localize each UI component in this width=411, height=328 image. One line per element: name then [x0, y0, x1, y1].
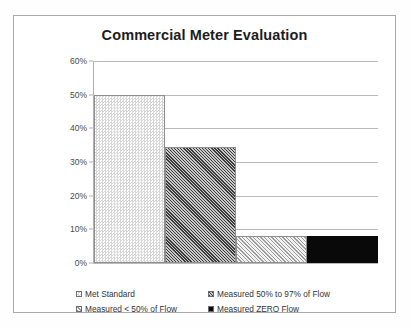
gridline — [93, 263, 378, 264]
y-tick-label: 60% — [70, 56, 87, 66]
y-tick-label: 0% — [75, 258, 87, 268]
y-tick-mark — [89, 162, 93, 163]
y-tick-mark — [89, 195, 93, 196]
legend-label: Measured ZERO Flow — [217, 305, 299, 313]
bar-3 — [236, 236, 307, 263]
chart-frame: Commercial Meter Evaluation 60%50%40%30%… — [13, 15, 396, 313]
y-tick-mark — [89, 229, 93, 230]
y-tick-mark — [89, 94, 93, 95]
chart-title: Commercial Meter Evaluation — [14, 27, 395, 43]
legend-label: Met Standard — [85, 290, 135, 298]
bar-1 — [94, 95, 165, 263]
y-tick-label: 40% — [70, 123, 87, 133]
bar-2 — [165, 147, 236, 263]
legend-item-2[interactable]: Measured 50% to 97% of Flow — [208, 290, 376, 298]
bar-4 — [307, 236, 378, 263]
y-tick-label: 10% — [70, 224, 87, 234]
chart-legend: Met StandardMeasured 50% to 97% of FlowM… — [76, 287, 376, 317]
y-tick-mark — [89, 128, 93, 129]
plot-area: 60%50%40%30%20%10%0% — [93, 61, 378, 263]
y-tick-mark — [89, 61, 93, 62]
y-tick-label: 50% — [70, 90, 87, 100]
legend-swatch-icon — [76, 306, 82, 312]
y-tick-mark — [89, 263, 93, 264]
bar-series — [94, 61, 378, 263]
legend-swatch-icon — [76, 291, 82, 297]
legend-item-4[interactable]: Measured ZERO Flow — [208, 305, 376, 313]
legend-label: Measured 50% to 97% of Flow — [217, 290, 330, 298]
legend-item-1[interactable]: Met Standard — [76, 290, 208, 298]
y-tick-label: 30% — [70, 157, 87, 167]
legend-swatch-icon — [208, 306, 214, 312]
chart-screenshot: Commercial Meter Evaluation 60%50%40%30%… — [0, 0, 411, 328]
y-tick-label: 20% — [70, 191, 87, 201]
legend-label: Measured < 50% of Flow — [85, 305, 177, 313]
legend-swatch-icon — [208, 291, 214, 297]
legend-item-3[interactable]: Measured < 50% of Flow — [76, 305, 208, 313]
